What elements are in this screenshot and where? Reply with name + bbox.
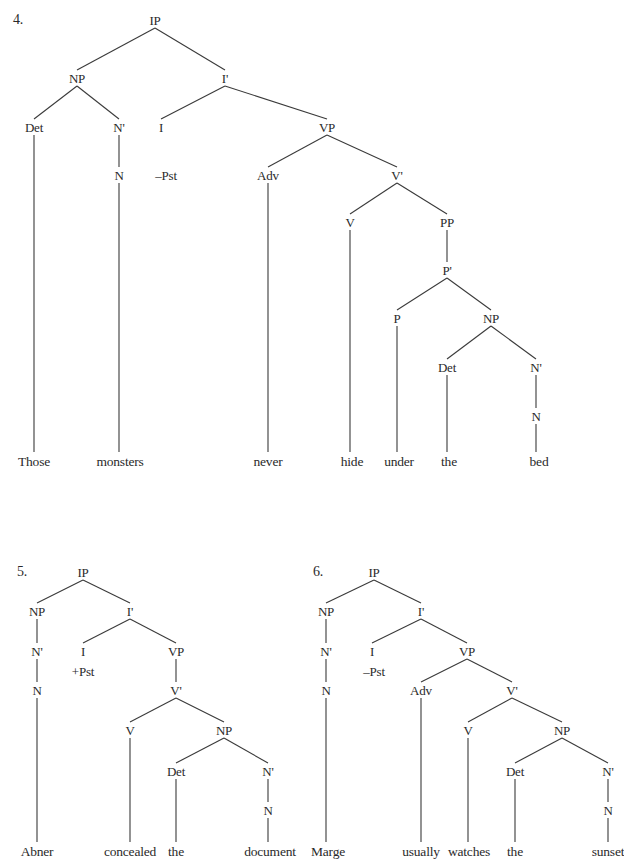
node-ibar: I' — [222, 72, 228, 85]
tree-branch — [327, 135, 397, 167]
example-number: 5. — [17, 565, 27, 579]
node-pp: PP — [440, 216, 454, 229]
tree-branch — [447, 278, 491, 310]
tree-branch — [421, 619, 467, 643]
terminal-word: bed — [530, 455, 549, 469]
tree-branch — [34, 86, 77, 119]
terminal-word: the — [168, 845, 184, 859]
terminal-word: Marge — [311, 845, 345, 859]
tree-branch — [176, 738, 224, 763]
node-nbar: N' — [31, 645, 42, 658]
node-n2: N — [263, 804, 272, 817]
node-np: NP — [69, 72, 85, 85]
tree-branch — [467, 659, 512, 682]
tree-branch — [512, 698, 562, 722]
node-np2: NP — [483, 312, 499, 325]
tree-branch — [83, 580, 130, 603]
node-np: NP — [318, 605, 334, 618]
node-n: N — [32, 684, 41, 697]
node-np2: NP — [216, 724, 232, 737]
node-vbar: V' — [506, 684, 517, 697]
node-det2: Det — [438, 361, 456, 374]
node-v: V — [345, 216, 354, 229]
node-n: N — [114, 169, 123, 182]
node-vp: VP — [319, 121, 335, 134]
tree-branch — [326, 580, 374, 603]
node-vp: VP — [459, 645, 475, 658]
node-vbar: V' — [170, 684, 181, 697]
tree-branch — [491, 326, 536, 359]
tree-branch — [77, 86, 119, 119]
terminal-word: the — [441, 455, 457, 469]
tree-branch — [161, 86, 225, 119]
terminal-word: usually — [402, 845, 440, 859]
tree-branch — [350, 183, 397, 214]
tree-branch — [397, 278, 447, 310]
node-ibar: I' — [418, 605, 424, 618]
node-p: P — [393, 312, 400, 325]
node-nbar2: N' — [262, 765, 273, 778]
tree-branch — [77, 28, 155, 70]
terminal-word: never — [254, 455, 283, 469]
terminal-word: concealed — [104, 845, 156, 859]
example-number: 4. — [13, 13, 23, 27]
tree-branch — [224, 738, 268, 763]
tree-branch — [447, 326, 491, 359]
node-n: N — [321, 684, 330, 697]
node-det: Det — [506, 765, 524, 778]
terminal-word: sunset — [592, 845, 624, 859]
node-nbar2: N' — [530, 361, 541, 374]
node-ibar: I' — [127, 605, 133, 618]
node-i: I — [159, 121, 163, 134]
node-np: NP — [29, 605, 45, 618]
node-nbar: N' — [113, 121, 124, 134]
node-n2: N — [603, 804, 612, 817]
tree-branch — [130, 619, 176, 643]
tree-branch — [176, 698, 224, 722]
node-det: Det — [25, 121, 43, 134]
terminal-word: document — [244, 845, 296, 859]
terminal-word: the — [507, 845, 523, 859]
tree-branch — [225, 86, 327, 119]
tree-branch — [421, 659, 467, 682]
node-v: V — [463, 724, 472, 737]
node-i: I — [81, 645, 85, 658]
node-tense: –Pst — [155, 169, 177, 182]
node-vbar: V' — [391, 169, 402, 182]
tree-branch — [374, 580, 421, 603]
node-tense: +Pst — [72, 665, 94, 678]
tree-branch — [130, 698, 176, 722]
tree-branch — [468, 698, 512, 722]
node-ip: IP — [368, 566, 379, 579]
node-nbar: N' — [320, 645, 331, 658]
terminal-word: hide — [341, 455, 363, 469]
tree-branch — [83, 619, 130, 643]
tree-branch — [268, 135, 327, 167]
tree-branch — [37, 580, 83, 603]
node-ip: IP — [149, 14, 160, 27]
terminal-word: Abner — [21, 845, 54, 859]
node-vp: VP — [168, 645, 184, 658]
node-np2: NP — [554, 724, 570, 737]
example-number: 6. — [313, 565, 323, 579]
terminal-word: watches — [448, 845, 490, 859]
node-adv: Adv — [410, 684, 432, 697]
terminal-word: monsters — [96, 455, 143, 469]
node-pbar: P' — [442, 264, 451, 277]
node-nbar2: N' — [602, 765, 613, 778]
tree-branch — [397, 183, 447, 214]
terminal-word: Those — [18, 455, 50, 469]
node-ip: IP — [77, 566, 88, 579]
tree-branch — [562, 738, 608, 763]
node-i: I — [370, 645, 374, 658]
node-det: Det — [167, 765, 185, 778]
tree-branch — [155, 28, 225, 70]
tree-branches — [0, 0, 624, 861]
tree-branch — [372, 619, 421, 643]
node-tense: –Pst — [363, 665, 385, 678]
terminal-word: under — [384, 455, 414, 469]
node-v: V — [125, 724, 134, 737]
tree-branch — [515, 738, 562, 763]
node-adv: Adv — [257, 169, 279, 182]
node-n2: N — [531, 410, 540, 423]
